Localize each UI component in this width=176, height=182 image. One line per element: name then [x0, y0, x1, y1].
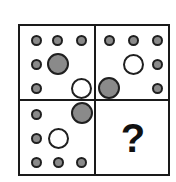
small-gray-dot-icon [52, 35, 63, 46]
matrix-cell-top-left [20, 26, 94, 100]
small-gray-dot-icon [31, 35, 42, 46]
matrix-cell-bottom-right: ? [96, 101, 170, 175]
small-gray-dot-icon [76, 35, 87, 46]
small-gray-dot-icon [152, 35, 163, 46]
small-gray-dot-icon [152, 83, 163, 94]
large-gray-circle-icon [71, 102, 93, 124]
matrix-cell-top-right [96, 26, 170, 100]
small-gray-dot-icon [53, 157, 64, 168]
small-gray-dot-icon [31, 59, 42, 70]
matrix-cell-bottom-left [20, 101, 94, 175]
small-gray-dot-icon [76, 157, 87, 168]
small-gray-dot-icon [31, 157, 42, 168]
large-white-circle-icon [123, 54, 144, 75]
matrix-frame: ? [18, 24, 170, 176]
matrix-puzzle: ? [0, 0, 176, 182]
small-gray-dot-icon [104, 35, 115, 46]
small-gray-dot-icon [31, 109, 42, 120]
small-gray-dot-icon [31, 133, 42, 144]
small-gray-dot-icon [152, 59, 163, 70]
small-gray-dot-icon [128, 35, 139, 46]
large-white-circle-icon [71, 78, 92, 99]
large-gray-circle-icon [98, 77, 120, 99]
question-mark-answer-slot: ? [96, 101, 170, 175]
small-gray-dot-icon [31, 83, 42, 94]
large-white-circle-icon [48, 128, 69, 149]
large-gray-circle-icon [47, 53, 69, 75]
